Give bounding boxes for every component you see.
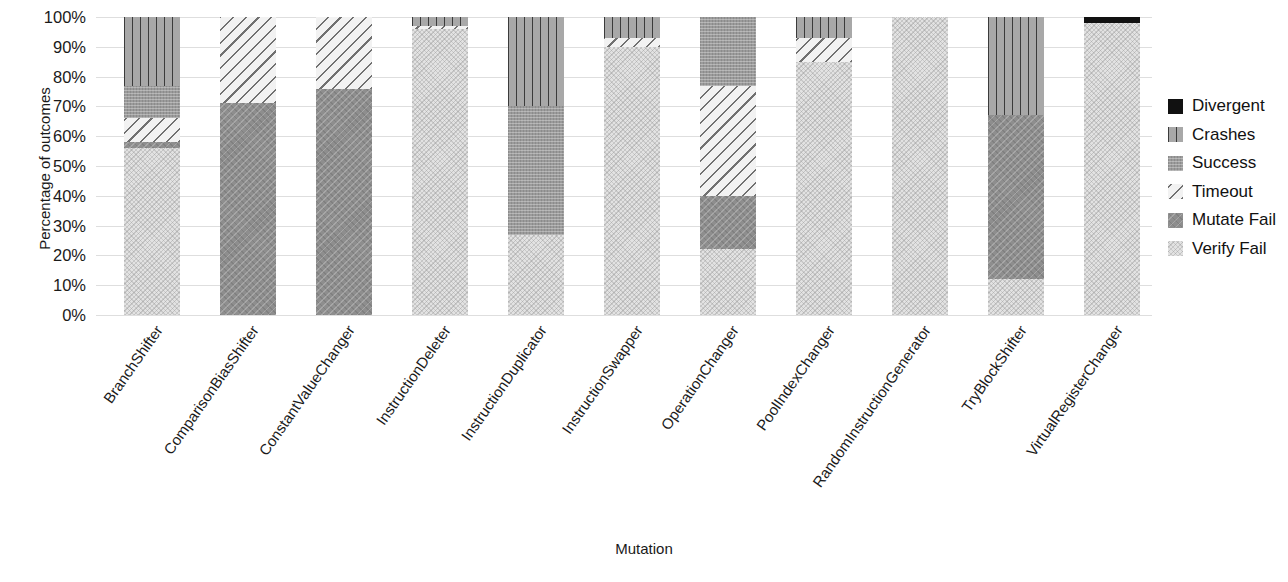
legend-label: Crashes [1192,125,1255,145]
bar-segment-verifyfail[interactable] [604,47,660,315]
bar-segment-mutatefail[interactable] [988,115,1044,279]
bar-segment-timeout[interactable] [220,17,276,103]
stacked-bar[interactable] [892,17,948,315]
y-axis-tick-label: 30% [16,218,86,235]
stacked-bar[interactable] [316,17,372,315]
bar-segment-timeout[interactable] [700,86,756,196]
legend-swatch-verifyfail-icon [1168,241,1183,256]
legend-swatch-success-icon [1168,156,1183,171]
legend-label: Verify Fail [1192,239,1267,259]
bar-segment-verifyfail[interactable] [124,148,180,315]
bar-segment-crashes[interactable] [988,17,1044,115]
bar-segment-crashes[interactable] [508,17,564,106]
legend-swatch-divergent-icon [1168,99,1183,114]
plot-area: 100%90%80%70%60%50%40%30%20%10%0% [96,17,1152,315]
chart-figure: Percentage of outcomes 100%90%80%70%60%5… [0,0,1288,582]
y-axis-tick-label: 50% [16,158,86,175]
stacked-bar[interactable] [412,17,468,315]
bar-segment-crashes[interactable] [124,17,180,86]
legend-label: Success [1192,153,1256,173]
stacked-bar[interactable] [700,17,756,315]
bar-segment-mutatefail[interactable] [124,142,180,148]
legend-item[interactable]: Success [1168,149,1288,178]
x-axis-title: Mutation [0,540,1288,557]
y-axis-tick-label: 40% [16,188,86,205]
stacked-bar[interactable] [508,17,564,315]
legend-item[interactable]: Crashes [1168,121,1288,150]
bar-segment-timeout[interactable] [604,38,660,47]
legend-label: Divergent [1192,96,1265,116]
bar-segment-crashes[interactable] [412,17,468,26]
bar-segment-success[interactable] [508,106,564,234]
bar-segment-verifyfail[interactable] [988,279,1044,315]
bar-segment-crashes[interactable] [604,17,660,38]
bar-segment-timeout[interactable] [796,38,852,62]
gridline [96,315,1152,316]
y-axis-tick-label: 90% [16,39,86,56]
stacked-bar[interactable] [796,17,852,315]
legend-item[interactable]: Mutate Fail [1168,206,1288,235]
chart-legend: DivergentCrashesSuccessTimeoutMutate Fai… [1168,92,1288,263]
legend-swatch-crashes-icon [1168,127,1183,142]
bar-segment-mutatefail[interactable] [316,89,372,315]
bar-segment-timeout[interactable] [124,118,180,142]
bar-segment-verifyfail[interactable] [508,235,564,315]
bar-segment-divergent[interactable] [1084,17,1140,23]
stacked-bar[interactable] [604,17,660,315]
bar-segment-verifyfail[interactable] [892,17,948,315]
bar-segment-timeout[interactable] [316,17,372,89]
bar-segment-success[interactable] [124,86,180,119]
stacked-bar[interactable] [988,17,1044,315]
bar-segment-mutatefail[interactable] [700,196,756,250]
bar-segment-verifyfail[interactable] [412,29,468,315]
legend-item[interactable]: Timeout [1168,178,1288,207]
y-axis-tick-label: 60% [16,128,86,145]
bar-segment-verifyfail[interactable] [1084,23,1140,315]
y-axis-tick-label: 20% [16,247,86,264]
bar-segment-mutatefail[interactable] [220,103,276,315]
stacked-bar[interactable] [220,17,276,315]
legend-swatch-timeout-icon [1168,184,1183,199]
legend-item[interactable]: Verify Fail [1168,235,1288,264]
stacked-bar[interactable] [1084,17,1140,315]
legend-label: Mutate Fail [1192,210,1276,230]
y-axis-tick-label: 10% [16,277,86,294]
bar-segment-success[interactable] [700,17,756,86]
y-axis-tick-label: 100% [16,9,86,26]
y-axis-tick-label: 70% [16,98,86,115]
y-axis-tick-label: 0% [16,307,86,324]
y-axis-tick-label: 80% [16,69,86,86]
bar-segment-verifyfail[interactable] [796,62,852,315]
legend-item[interactable]: Divergent [1168,92,1288,121]
bar-segment-timeout[interactable] [412,26,468,29]
legend-swatch-mutatefail-icon [1168,213,1183,228]
stacked-bar[interactable] [124,17,180,315]
bar-segment-crashes[interactable] [796,17,852,38]
legend-label: Timeout [1192,182,1253,202]
bar-segment-verifyfail[interactable] [700,249,756,315]
